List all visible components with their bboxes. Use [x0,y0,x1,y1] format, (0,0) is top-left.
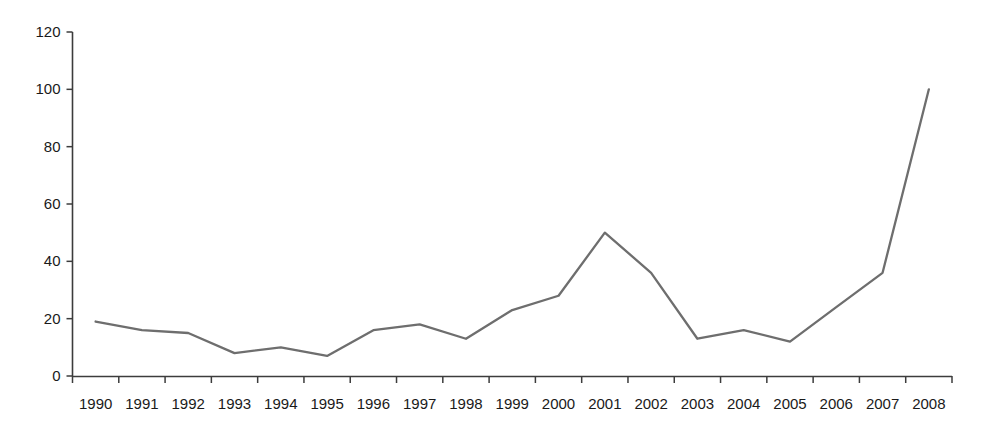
line-chart: 020406080100120 199019911992199319941995… [0,0,988,432]
y-axis-ticks [67,32,73,376]
y-tick-label: 100 [35,81,60,96]
y-tick-label: 80 [44,139,61,154]
y-tick-label: 20 [44,311,61,326]
y-tick-label: 0 [52,368,60,383]
y-tick-label: 40 [44,253,61,268]
data-series-line [96,89,929,356]
x-tick-label: 2008 [899,396,959,411]
y-tick-label: 60 [44,196,61,211]
y-tick-label: 120 [35,24,60,39]
chart-plot-area [0,0,988,432]
